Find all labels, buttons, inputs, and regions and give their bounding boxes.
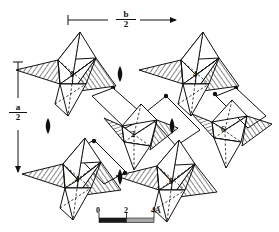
scale-tick-4: 4Å	[151, 206, 161, 215]
cluster-height-label-top-left: 0	[70, 70, 74, 79]
twofold-top-center	[118, 66, 123, 82]
scale-tick-2: 2	[124, 206, 128, 215]
structure-figure: b 2 a 2 0 4 2 6 4 0 0 2 4Å	[0, 0, 279, 232]
b-axis-denominator: 2	[116, 19, 136, 29]
scale-tick-0: 0	[96, 206, 100, 215]
b-axis-numerator: b	[116, 10, 136, 19]
a-axis-numerator: a	[9, 103, 27, 112]
cluster-height-label-bottom-left: 4	[75, 175, 79, 184]
twofold-left-middle	[46, 118, 51, 134]
cluster-height-label-middle-right: 6	[221, 125, 225, 134]
structure-svg	[0, 0, 279, 232]
cluster-height-label-top-right: 4	[193, 70, 197, 79]
a-axis-denominator: 2	[9, 112, 27, 122]
cluster-middle-right	[192, 92, 272, 168]
cluster-height-label-center: 2	[131, 130, 135, 139]
a-axis-label: a 2	[9, 103, 27, 122]
b-axis-label: b 2	[116, 10, 136, 29]
cluster-height-label-bottom-right: 0	[169, 177, 173, 186]
cluster-bottom-left	[22, 138, 121, 220]
